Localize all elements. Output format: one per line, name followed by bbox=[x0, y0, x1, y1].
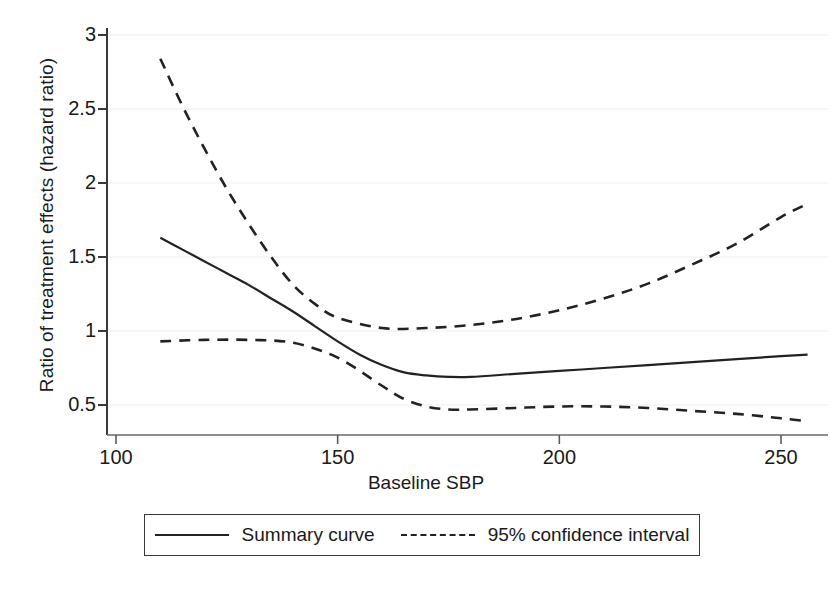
series-line-1 bbox=[160, 59, 807, 329]
legend: Summary curve95% confidence interval bbox=[144, 514, 700, 556]
legend-swatch-dashed-icon bbox=[401, 534, 475, 536]
series-line-0 bbox=[160, 238, 807, 377]
series-line-2 bbox=[160, 340, 807, 422]
legend-entry-0[interactable]: Summary curve bbox=[155, 524, 375, 546]
legend-label: 95% confidence interval bbox=[488, 524, 690, 546]
legend-entry-1[interactable]: 95% confidence interval bbox=[401, 524, 690, 546]
chart-figure: Ratio of treatment effects (hazard ratio… bbox=[0, 0, 833, 589]
legend-swatch-solid-icon bbox=[155, 534, 229, 536]
plot-area bbox=[0, 0, 833, 589]
legend-label: Summary curve bbox=[242, 524, 375, 546]
